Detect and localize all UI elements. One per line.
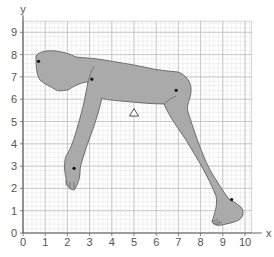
x-tick-label: 0 — [20, 236, 26, 248]
point-ankle — [230, 198, 233, 201]
x-tick-label: 3 — [87, 236, 93, 248]
y-tick-label: 4 — [11, 138, 17, 150]
y-tick-label: 5 — [11, 116, 17, 128]
y-tick-label: 8 — [11, 49, 17, 61]
point-shoulder — [90, 78, 93, 81]
point-hand — [72, 167, 75, 170]
point-hip — [175, 89, 178, 92]
y-tick-label: 7 — [11, 71, 17, 83]
y-tick-label: 3 — [11, 160, 17, 172]
x-tick-label: 9 — [220, 236, 226, 248]
y-axis-label: y — [20, 3, 26, 15]
x-tick-label: 1 — [42, 236, 48, 248]
x-tick-label: 4 — [109, 236, 115, 248]
y-tick-label: 6 — [11, 93, 17, 105]
x-tick-label: 8 — [198, 236, 204, 248]
point-head — [37, 60, 40, 63]
x-tick-label: 10 — [239, 236, 251, 248]
y-tick-label: 1 — [11, 205, 17, 217]
x-tick-label: 6 — [153, 236, 159, 248]
x-tick-label: 7 — [175, 236, 181, 248]
y-tick-label: 9 — [11, 26, 17, 38]
x-tick-label: 5 — [131, 236, 137, 248]
x-axis-label: x — [266, 227, 272, 239]
chart-canvas: 0123456789100123456789xy — [0, 0, 274, 257]
y-tick-label: 2 — [11, 182, 17, 194]
x-tick-label: 2 — [64, 236, 70, 248]
chart: 0123456789100123456789xy — [0, 0, 274, 257]
y-tick-label: 0 — [11, 227, 17, 239]
